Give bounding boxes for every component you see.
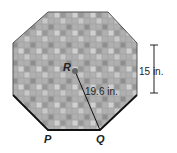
vertex-label-q: Q — [96, 133, 105, 145]
side-length-label: 15 in. — [139, 66, 163, 77]
octagon-diagram: R 19.6 in. 15 in. P Q — [0, 0, 177, 153]
vertex-label-p: P — [44, 133, 52, 145]
center-point — [72, 68, 78, 74]
center-label: R — [63, 61, 71, 73]
radius-label: 19.6 in. — [85, 86, 118, 97]
